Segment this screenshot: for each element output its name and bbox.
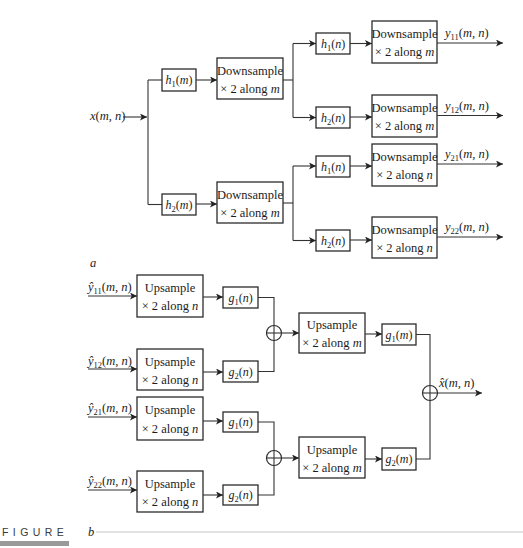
block-title: Downsample: [372, 101, 438, 115]
input-label-y12-hat: ŷ12(m, n): [86, 354, 132, 370]
filter-label: h2(n): [321, 111, 345, 127]
figure-label: FIGURE: [2, 526, 68, 538]
figure-label-underline: [0, 541, 69, 546]
sum-junction-icon: [267, 326, 282, 341]
filter-block-g1-m: g1(m): [382, 324, 416, 345]
upsample-block-22: Upsample × 2 along n: [137, 471, 203, 512]
block-title: Upsample: [307, 443, 358, 457]
sum-junction-icon: [423, 386, 438, 401]
block-subtitle: × 2 along n: [376, 241, 433, 255]
upsample-block-21: Upsample × 2 along n: [137, 397, 203, 440]
downsample-block-21: Downsample × 2 along n: [372, 144, 438, 186]
filter-label: g2(n): [228, 365, 252, 381]
filter-block-g2-n: g2(n): [223, 361, 258, 382]
block-subtitle: × 2 along m: [220, 206, 279, 220]
filter-block-g2-m: g2(m): [382, 448, 416, 470]
filter-label: g1(n): [228, 291, 252, 307]
block-subtitle: × 2 along m: [302, 336, 361, 350]
output-label-y21: y21(m, n): [443, 147, 489, 163]
input-signal-label: x(m, n): [89, 109, 125, 123]
block-subtitle: × 2 along n: [142, 495, 199, 509]
block-subtitle: × 2 along m: [375, 45, 434, 59]
block-title: Upsample: [145, 281, 196, 295]
downsample-block-row-2: Downsample × 2 along m: [217, 182, 283, 223]
sum-junction-icon: [267, 451, 282, 466]
analysis-section: x(m, n) h1(m) Downsample × 2 along m h1(…: [89, 21, 503, 270]
block-title: Downsample: [372, 223, 438, 237]
downsample-block-12: Downsample × 2 along m: [372, 95, 438, 137]
block-title: Downsample: [217, 188, 283, 202]
filter-label: h1(n): [321, 37, 345, 53]
figure-caption: FIGURE b: [0, 525, 523, 546]
block-subtitle: × 2 along n: [142, 299, 199, 313]
input-label-y22-hat: ŷ22(m, n): [86, 474, 132, 490]
block-title: Downsample: [372, 150, 438, 164]
upsample-block-12: Upsample × 2 along n: [137, 349, 203, 390]
block-title: Downsample: [217, 64, 283, 78]
filter-label: h2(m): [166, 198, 193, 214]
block-title: Upsample: [145, 403, 196, 417]
filter-label: h2(n): [321, 234, 345, 250]
output-label-y12: y12(m, n): [443, 99, 489, 115]
part-a-label: a: [90, 256, 96, 270]
filter-block-h1-m: h1(m): [162, 69, 196, 91]
input-label-y11-hat: ŷ11(m, n): [86, 280, 132, 296]
filter-label: g1(m): [386, 328, 413, 344]
block-subtitle: × 2 along m: [220, 82, 279, 96]
filter-label: h1(m): [166, 73, 193, 89]
downsample-block-22: Downsample × 2 along n: [372, 217, 438, 258]
part-b-label: b: [88, 525, 94, 539]
block-subtitle: × 2 along m: [302, 461, 361, 475]
upsample-block-11: Upsample × 2 along n: [137, 275, 203, 317]
filter-block-g2-n: g2(n): [223, 485, 258, 505]
filter-label: h1(n): [321, 160, 345, 176]
filter-block-h2-m: h2(m): [162, 194, 196, 215]
block-title: Upsample: [145, 477, 196, 491]
filter-block-g1-n: g1(n): [223, 287, 258, 308]
filter-label: g1(n): [228, 415, 252, 431]
filter-block-h2-n: h2(n): [316, 230, 350, 251]
output-label-x-hat: x̂(m, n): [438, 376, 474, 390]
filter-block-h2-n: h2(n): [316, 107, 350, 128]
output-label-y22: y22(m, n): [443, 220, 489, 236]
synthesis-section: ŷ11(m, n) Upsample × 2 along n g1(n) ŷ12…: [86, 275, 482, 512]
filter-block-h1-n: h1(n): [316, 33, 350, 54]
filter-block-g1-n: g1(n): [223, 412, 258, 432]
block-title: Upsample: [307, 318, 358, 332]
block-title: Downsample: [372, 27, 438, 41]
downsample-block-row-1: Downsample × 2 along m: [217, 58, 283, 99]
block-subtitle: × 2 along n: [142, 373, 199, 387]
input-label-y21-hat: ŷ21(m, n): [86, 401, 132, 417]
upsample-block-row-2: Upsample × 2 along m: [299, 437, 365, 478]
block-subtitle: × 2 along n: [376, 168, 433, 182]
filter-block-h1-n: h1(n): [316, 156, 350, 177]
filter-label: g2(m): [386, 452, 413, 468]
upsample-block-row-1: Upsample × 2 along m: [299, 313, 365, 353]
filter-bank-diagram: x(m, n) h1(m) Downsample × 2 along m h1(…: [0, 0, 523, 548]
block-title: Upsample: [145, 355, 196, 369]
block-subtitle: × 2 along m: [375, 119, 434, 133]
filter-label: g2(n): [228, 488, 252, 504]
output-label-y11: y11(m, n): [443, 26, 489, 42]
block-subtitle: × 2 along n: [142, 422, 199, 436]
downsample-block-11: Downsample × 2 along m: [372, 21, 438, 63]
